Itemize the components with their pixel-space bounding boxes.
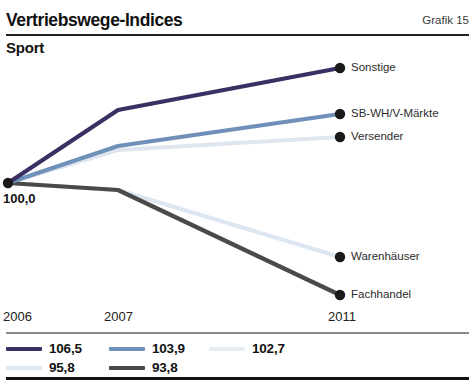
legend-value-warenhaeuser: 95,8 <box>49 360 74 375</box>
legend-item-warenhaeuser: 95,8 <box>6 360 74 375</box>
line-chart-plot <box>0 0 475 387</box>
data-point-fachhandel <box>335 290 345 300</box>
footer-divider <box>6 377 469 380</box>
series-label-fachhandel: Fachhandel <box>351 288 411 300</box>
series-line-fachhandel <box>8 183 340 295</box>
legend-item-versender: 102,7 <box>209 341 285 356</box>
series-label-versender: Versender <box>351 130 403 142</box>
legend-swatch-sbwh <box>109 347 145 351</box>
series-label-warenhaeuser: Warenhäuser <box>351 250 420 262</box>
legend-item-fachhandel: 93,8 <box>109 360 177 375</box>
data-point-sonstige <box>335 63 345 73</box>
legend-swatch-warenhaeuser <box>6 366 42 370</box>
chart-header: Vertriebswege-Indices Grafik 15 <box>6 10 469 34</box>
base-value-label: 100,0 <box>3 191 36 206</box>
legend-swatch-versender <box>209 347 245 351</box>
series-line-sbwh <box>8 114 340 183</box>
series-label-sbwh: SB-WH/V-Märkte <box>351 107 439 119</box>
legend-value-sonstige: 106,5 <box>49 341 82 356</box>
data-point-sbwh <box>335 109 345 119</box>
legend-value-sbwh: 103,9 <box>152 341 185 356</box>
series-line-warenhaeuser <box>8 183 340 257</box>
data-point-versender <box>335 132 345 142</box>
series-line-sonstige <box>8 68 340 183</box>
legend-value-fachhandel: 93,8 <box>152 360 177 375</box>
x-axis-tick-2006: 2006 <box>3 309 32 324</box>
legend-swatch-fachhandel <box>109 366 145 370</box>
legend-swatch-sonstige <box>6 347 42 351</box>
chart-subtitle: Sport <box>6 39 44 56</box>
legend-item-sonstige: 106,5 <box>6 341 82 356</box>
legend-item-sbwh: 103,9 <box>109 341 185 356</box>
chart-page: Vertriebswege-Indices Grafik 15 Sport 10… <box>0 0 475 387</box>
x-axis-divider <box>6 332 469 334</box>
data-point-warenhaeuser <box>335 252 345 262</box>
figure-number: Grafik 15 <box>422 14 469 26</box>
page-title: Vertriebswege-Indices <box>6 10 182 31</box>
series-line-versender <box>8 137 340 183</box>
x-axis-tick-2011: 2011 <box>328 309 356 324</box>
legend-value-versender: 102,7 <box>252 341 285 356</box>
chart-legend: 106,5 103,9 102,7 95,8 93,8 <box>6 339 469 375</box>
series-label-sonstige: Sonstige <box>351 61 396 73</box>
data-point-origin <box>3 178 13 188</box>
title-divider <box>6 34 469 36</box>
x-axis-tick-2007: 2007 <box>104 309 133 324</box>
